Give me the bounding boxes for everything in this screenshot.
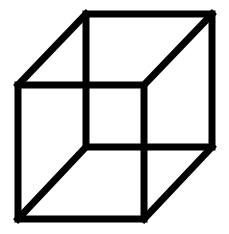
edge-top-left [18,14,86,85]
edge-bottom-right [144,147,212,219]
edge-top-right [144,14,212,85]
necker-cube-diagram [0,0,229,234]
edge-bottom-left [18,147,86,219]
